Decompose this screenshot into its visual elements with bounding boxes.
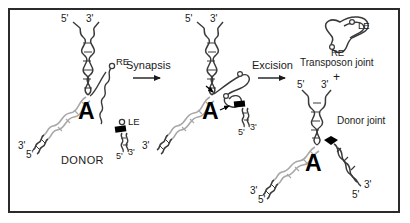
panel2-label-5prime-top-left: 5' [185, 14, 192, 24]
panel1-label-3prime-left: 3' [18, 141, 25, 151]
panel2-label-5prime-right: 5' [238, 128, 245, 137]
panel1-label-3prime-top-right: 3' [86, 14, 93, 24]
panel3-letter-a: A [305, 152, 322, 175]
panel1-label-3prime-bottom: 3' [128, 148, 135, 157]
step-label-synapsis: Synapsis [126, 60, 171, 71]
panel2-label-3prime-left: 3' [142, 141, 149, 151]
panel3-label-3prime-right: 3' [364, 180, 371, 190]
panel3-label-3prime-left: 3' [250, 186, 257, 196]
panel3-label-3prime-top-right: 3' [321, 80, 328, 90]
panel1-label-5prime-top-left: 5' [61, 14, 68, 24]
panel2-letter-a: A [202, 100, 219, 123]
panel3-label-5prime-top-left: 5' [297, 80, 304, 90]
panel3-label-5prime-right: 5' [352, 190, 359, 200]
panel3-label-plus: + [333, 71, 340, 83]
panel1-label-5prime-bottom: 5' [116, 152, 123, 161]
figure-root: 5' 3' 3' 5' 5' 3' RE LE A DONOR Synapsis… [0, 0, 410, 223]
panel3-label-le: LE [358, 21, 370, 31]
panel2-label-3prime-right: 3' [250, 123, 257, 132]
panel3-label-transposon-joint: Transposon joint [300, 58, 374, 68]
step-label-excision: Excision [252, 60, 293, 71]
panel1-label-donor: DONOR [61, 155, 104, 166]
panel1-label-le: LE [128, 117, 140, 127]
panel3-label-5prime-left: 5' [258, 195, 265, 205]
panel3-label-donor-joint: Donor joint [337, 116, 385, 126]
panel2-label-3prime-top-right: 3' [210, 14, 217, 24]
panel1-letter-a: A [78, 100, 95, 123]
panel1-label-5prime-left: 5' [26, 150, 33, 160]
